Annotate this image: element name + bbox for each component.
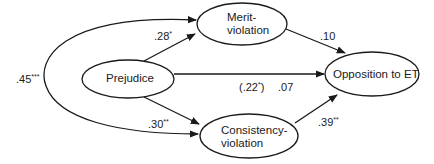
coef-correlation: .45***: [16, 73, 39, 85]
coef-prejudice-opposition-direct: .07: [278, 81, 293, 93]
prejudice-label: Prejudice: [106, 72, 154, 85]
coef-merit-opposition: .10: [320, 30, 335, 42]
opposition-label: Opposition to ET: [333, 68, 419, 81]
consistency-violation-label: Consistency- violation: [221, 124, 287, 150]
merit-line2: violation: [227, 24, 269, 37]
consistency-line2: violation: [221, 137, 287, 150]
coef-prejudice-opposition-total: (.22*): [239, 81, 264, 93]
arrow-merit-opposition: [286, 29, 345, 53]
coef-prejudice-consistency: .30**: [148, 118, 169, 130]
path-diagram: [0, 0, 434, 164]
coef-consistency-opposition: .39**: [318, 116, 339, 128]
consistency-line1: Consistency-: [221, 124, 287, 137]
merit-violation-label: Merit- violation: [227, 11, 269, 37]
merit-line1: Merit-: [227, 11, 269, 24]
coef-prejudice-merit: .28*: [154, 30, 172, 42]
